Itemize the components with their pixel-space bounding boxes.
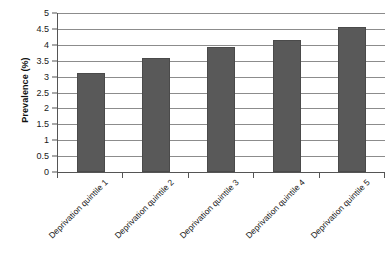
bar-slot [320,13,385,172]
y-axis-tick-label: 0 [44,168,49,177]
x-axis-tick-label-text: Deprivation quintile 2 [113,178,176,241]
x-axis-tick-label-text: Deprivation quintile 4 [244,178,307,241]
y-axis-tick-label: 3 [44,72,49,81]
bar-chart-figure: Prevalence (%) 00.511.522.533.544.55 Dep… [0,0,388,273]
bar [338,27,366,172]
bar [77,73,105,172]
plot-area [57,13,385,173]
bar [142,58,170,172]
x-axis-tick-label-text: Deprivation quintile 1 [48,178,111,241]
bar-slot [58,13,123,172]
y-axis-tick-label: 5 [44,9,49,18]
x-axis-tick-labels: Deprivation quintile 1Deprivation quinti… [57,178,384,273]
y-axis-tick-label: 2 [44,104,49,113]
x-axis-tick-label-text: Deprivation quintile 3 [178,178,241,241]
y-axis-tick-label: 4.5 [36,24,49,33]
bars-container [58,13,385,172]
bar-slot [123,13,188,172]
x-axis-tick-label-text: Deprivation quintile 5 [309,178,372,241]
y-axis-tick-label: 4 [44,40,49,49]
y-axis-tick-label: 2.5 [36,88,49,97]
y-axis-tick-label: 1 [44,136,49,145]
y-axis-tick-label: 1.5 [36,120,49,129]
x-axis-tick-mark [384,173,385,178]
y-axis-tick-label: 0.5 [36,152,49,161]
bar [207,47,235,172]
y-axis-tick-label: 3.5 [36,56,49,65]
bar-slot [189,13,254,172]
y-axis-tick-labels: 00.511.522.533.544.55 [0,13,57,172]
bar [273,40,301,172]
bar-slot [254,13,319,172]
